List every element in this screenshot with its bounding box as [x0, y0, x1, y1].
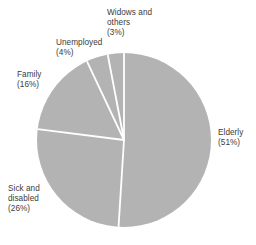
pie-label-elderly: Elderly (51%) — [218, 128, 256, 148]
pie-label-family: Family (16%) — [17, 70, 71, 90]
pie-chart-figure: Widows and others (3%) Unemployed (4%) F… — [0, 0, 256, 245]
pie-label-widows-and-others: Widows and others (3%) — [107, 8, 177, 39]
pie-label-sick-and-disabled: Sick and disabled (26%) — [8, 184, 66, 215]
pie-label-unemployed: Unemployed (4%) — [56, 38, 118, 58]
